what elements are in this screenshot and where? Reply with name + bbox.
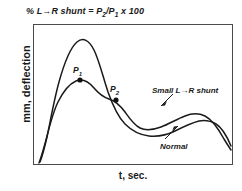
annotation-normal: Normal: [160, 142, 188, 151]
annotation-small-lr-shunt: Small L→R shunt: [152, 86, 218, 95]
formula-middle: R shunt = P: [51, 6, 102, 16]
leader-line-shunt: [161, 94, 173, 106]
curve-normal: [40, 40, 231, 162]
formula-divider: /P: [106, 6, 115, 16]
figure-formula-title: % L→R shunt = P2/P1 x 100: [26, 5, 144, 21]
leader-line-normal: [165, 126, 178, 139]
figure-container: % L→R shunt = P2/P1 x 100 mm, deflection…: [0, 0, 242, 191]
x-axis-label: t, sec.: [33, 170, 233, 181]
data-point-p2: [113, 97, 118, 102]
point-label-p2: P2: [110, 85, 119, 98]
point-label-p1: P1: [73, 66, 82, 79]
point-label-p2-sub: 2: [116, 90, 119, 96]
annotation-shunt-suffix: R shunt: [188, 86, 218, 95]
formula-suffix: x 100: [118, 6, 144, 16]
y-axis-label: mm, deflection: [20, 24, 32, 144]
annotation-shunt-prefix: Small L: [152, 86, 180, 95]
formula-prefix: % L: [26, 6, 42, 16]
point-label-p1-sub: 1: [79, 71, 82, 77]
